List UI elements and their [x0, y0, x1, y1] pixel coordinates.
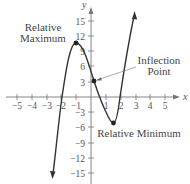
x-tick-label: 5 — [163, 101, 168, 111]
x-tick-label: −5 — [12, 101, 22, 111]
y-tick-label: −12 — [70, 154, 85, 164]
x-axis-label: x — [182, 91, 188, 102]
x-tick-label: 3 — [134, 101, 139, 111]
y-tick-label: 3 — [80, 78, 85, 88]
y-axis-label: y — [81, 0, 87, 10]
curve-up-arrow-icon — [132, 11, 137, 19]
inflection-pointer-arrow-icon — [96, 77, 102, 80]
y-tick-label: −9 — [75, 139, 85, 149]
relative-minimum-label: Relative Minimum — [97, 127, 181, 139]
x-tick-label: 4 — [148, 101, 153, 111]
y-tick-label: −15 — [70, 169, 85, 179]
x-axis-arrow-icon — [173, 95, 180, 100]
y-tick-label: −3 — [75, 108, 85, 118]
curve-down-arrow-icon — [50, 171, 56, 179]
x-axis: −5 −4 −3 −2 −1 1 2 3 4 5 x — [6, 91, 188, 111]
y-tick-label: 15 — [76, 17, 86, 27]
y-axis-arrow-icon — [89, 7, 94, 14]
y-tick-label: −6 — [75, 123, 85, 133]
relative-minimum-point — [111, 121, 116, 126]
relative-maximum-label: Maximum — [20, 32, 66, 44]
x-tick-label: −4 — [27, 101, 37, 111]
cubic-graph: −5 −4 −3 −2 −1 1 2 3 4 5 x 15 12 9 6 3 — [0, 0, 190, 184]
inflection-point-marker — [92, 79, 97, 84]
inflection-pointer-line — [97, 67, 136, 80]
y-tick-label: 12 — [76, 32, 86, 42]
inflection-point-label: Point — [147, 65, 170, 77]
y-tick-label: 6 — [80, 62, 85, 72]
relative-maximum-point — [74, 41, 79, 46]
y-axis: 15 12 9 6 3 −3 −6 −9 −12 −15 y — [70, 0, 94, 184]
x-tick-label: −3 — [42, 101, 52, 111]
